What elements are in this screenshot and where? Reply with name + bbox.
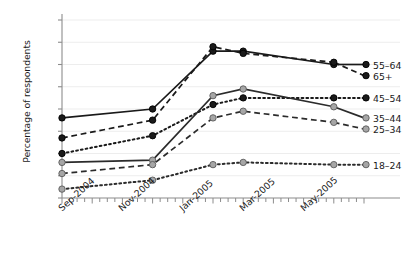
legend-marker <box>363 61 369 67</box>
data-point <box>59 115 65 121</box>
legend-marker <box>363 161 369 167</box>
data-point <box>149 161 155 167</box>
legend-marker <box>363 95 369 101</box>
series-line <box>62 51 334 118</box>
data-point <box>59 150 65 156</box>
data-point <box>59 170 65 176</box>
data-point <box>331 119 337 125</box>
legend-marker <box>363 72 369 78</box>
data-point <box>240 159 246 165</box>
data-point <box>210 161 216 167</box>
line-chart: Percentage of respondents 0%10%20%30%40%… <box>0 0 404 257</box>
data-point <box>59 135 65 141</box>
legend-item-label: 45–54 <box>373 92 401 103</box>
data-point <box>331 95 337 101</box>
data-point <box>240 108 246 114</box>
data-point <box>149 117 155 123</box>
legend-marker <box>363 115 369 121</box>
series-line <box>62 111 334 173</box>
plot-area <box>0 0 404 257</box>
data-point <box>149 133 155 139</box>
legend-item-label: 55–64 <box>373 59 401 70</box>
legend-marker <box>363 126 369 132</box>
data-point <box>210 101 216 107</box>
series-line <box>62 98 334 154</box>
series-legend-connector <box>334 107 364 118</box>
data-point <box>240 50 246 56</box>
data-point <box>331 161 337 167</box>
legend-item-label: 18–24 <box>373 159 401 170</box>
series-line <box>62 47 334 138</box>
series-line <box>62 89 334 162</box>
series-legend-connector <box>334 122 364 129</box>
data-point <box>240 95 246 101</box>
data-point <box>210 92 216 98</box>
data-point <box>331 59 337 65</box>
legend-item-label: 65+ <box>373 70 393 81</box>
legend-item-label: 35–44 <box>373 112 401 123</box>
data-point <box>210 44 216 50</box>
data-point <box>59 159 65 165</box>
series-55-64 <box>59 48 369 121</box>
data-point <box>210 115 216 121</box>
data-point <box>149 106 155 112</box>
data-point <box>331 104 337 110</box>
legend-item-label: 25–34 <box>373 124 401 135</box>
data-point <box>240 86 246 92</box>
data-point <box>59 186 65 192</box>
